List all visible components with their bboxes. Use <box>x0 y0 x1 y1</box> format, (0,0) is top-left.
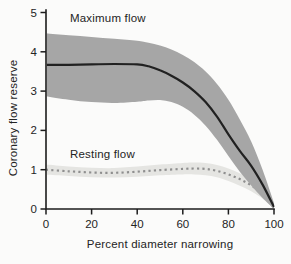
x-tick-label: 0 <box>43 218 49 230</box>
x-axis-title: Percent diameter narrowing <box>87 238 233 250</box>
x-tick-label: 40 <box>131 218 144 230</box>
y-tick-label: 1 <box>31 164 37 176</box>
legend-label-maximum-flow: Maximum flow <box>70 12 146 24</box>
legend-label-resting-flow: Resting flow <box>70 148 135 160</box>
x-tick-label: 80 <box>222 218 235 230</box>
x-tick-label: 100 <box>264 218 283 230</box>
y-tick-label: 0 <box>31 203 37 215</box>
x-tick-label: 60 <box>176 218 189 230</box>
x-tick-label: 20 <box>85 218 98 230</box>
y-axis-title: Coronary flow reserve <box>7 60 19 177</box>
y-tick-label: 4 <box>31 46 38 58</box>
chart-plot-area: 012345020406080100 <box>0 0 291 264</box>
y-tick-label: 2 <box>31 124 37 136</box>
y-tick-label: 5 <box>31 7 37 19</box>
y-tick-label: 3 <box>31 85 37 97</box>
coronary-flow-reserve-chart: 012345020406080100 Maximum flow Resting … <box>0 0 291 264</box>
